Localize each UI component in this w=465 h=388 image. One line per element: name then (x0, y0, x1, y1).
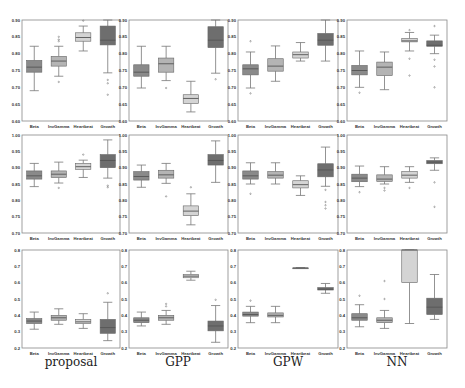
y-tick-label: 0.90 (12, 18, 21, 23)
y-tick-label: 0.8 (14, 248, 20, 253)
x-tick-label: InvGamma (374, 236, 396, 241)
x-tick-label: Beta (246, 236, 256, 241)
y-tick-label: 0.85 (228, 182, 237, 187)
y-tick-label: 0.65 (337, 102, 346, 107)
plot-frame (22, 135, 120, 233)
panel-nn-row2: 0.700.750.800.850.900.951.00BetaInvGamma… (337, 133, 447, 242)
y-tick-label: 0.85 (12, 34, 21, 39)
plot-frame (238, 250, 338, 348)
y-tick-label: 0.8 (121, 248, 127, 253)
y-tick-label: 0.80 (337, 51, 346, 56)
y-tick-label: 0.90 (119, 18, 128, 23)
y-tick-label: 0.2 (14, 346, 20, 351)
y-tick-label: 0.70 (12, 231, 21, 236)
y-tick-label: 1.00 (119, 133, 128, 138)
y-tick-label: 1.00 (228, 133, 237, 138)
y-tick-label: 0.75 (337, 214, 346, 219)
y-tick-label: 0.6 (14, 280, 20, 285)
y-tick-label: 0.85 (337, 182, 346, 187)
column-label-nn: NN (347, 355, 447, 369)
y-tick-label: 0.6 (121, 280, 127, 285)
x-tick-label: Beta (137, 236, 147, 241)
y-tick-label: 0.8 (230, 248, 236, 253)
x-tick-label: Heartbeat (291, 124, 311, 129)
box-heartbeat (293, 268, 309, 269)
x-tick-label: Growth (208, 236, 223, 241)
panel-proposal-row2: 0.700.750.800.850.900.951.00BetaInvGamma… (12, 133, 120, 242)
y-tick-label: 0.95 (119, 149, 128, 154)
y-tick-label: 0.4 (230, 313, 236, 318)
y-tick-label: 0.75 (228, 214, 237, 219)
y-tick-label: 0.75 (12, 214, 21, 219)
y-tick-label: 0.70 (228, 85, 237, 90)
y-tick-label: 0.85 (12, 182, 21, 187)
plot-frame (129, 135, 228, 233)
y-tick-label: 0.7 (230, 264, 236, 269)
panel-gpp-row2: 0.700.750.800.850.900.951.00BetaInvGamma… (119, 133, 228, 242)
y-tick-label: 0.60 (337, 119, 346, 124)
x-tick-label: Heartbeat (74, 236, 94, 241)
x-tick-label: Beta (355, 124, 365, 129)
y-tick-label: 0.7 (339, 264, 345, 269)
y-tick-label: 0.80 (119, 51, 128, 56)
x-tick-label: Heartbeat (400, 124, 420, 129)
x-tick-label: Heartbeat (181, 124, 201, 129)
y-tick-label: 0.85 (119, 182, 128, 187)
x-tick-label: InvGamma (374, 124, 396, 129)
x-tick-label: Growth (100, 124, 115, 129)
x-tick-label: Beta (30, 124, 40, 129)
x-tick-label: InvGamma (155, 236, 177, 241)
y-tick-label: 0.5 (339, 297, 345, 302)
x-tick-label: Growth (318, 236, 333, 241)
x-tick-label: InvGamma (48, 236, 70, 241)
boxplot-grid: 0.600.650.700.750.800.850.90BetaInvGamma… (0, 0, 465, 388)
y-tick-label: 0.3 (230, 329, 236, 334)
panel-nn-row3: 0.20.30.40.50.60.70.8BetaInvGammaHeartbe… (339, 248, 447, 357)
y-tick-label: 0.85 (228, 34, 237, 39)
x-tick-label: InvGamma (48, 124, 70, 129)
panel-gpw-row1: 0.600.650.700.750.800.850.90BetaInvGamma… (228, 18, 338, 130)
x-tick-label: InvGamma (265, 236, 287, 241)
panel-gpp-row1: 0.600.650.700.750.800.850.90BetaInvGamma… (119, 18, 228, 130)
y-tick-label: 0.60 (119, 119, 128, 124)
y-tick-label: 0.90 (228, 165, 237, 170)
y-tick-label: 0.75 (12, 68, 21, 73)
y-tick-label: 0.4 (121, 313, 127, 318)
y-tick-label: 0.90 (119, 165, 128, 170)
panel-gpw-row2: 0.700.750.800.850.900.951.00BetaInvGamma… (228, 133, 338, 242)
y-tick-label: 1.00 (12, 133, 21, 138)
y-tick-label: 0.5 (121, 297, 127, 302)
y-tick-label: 0.70 (119, 85, 128, 90)
x-tick-label: Growth (100, 236, 115, 241)
y-tick-label: 0.70 (12, 85, 21, 90)
y-tick-label: 0.5 (14, 297, 20, 302)
y-tick-label: 0.5 (230, 297, 236, 302)
x-tick-label: InvGamma (265, 124, 287, 129)
column-label-gpp: GPP (128, 355, 228, 369)
x-tick-label: Heartbeat (291, 236, 311, 241)
y-tick-label: 0.70 (228, 231, 237, 236)
y-tick-label: 0.75 (228, 68, 237, 73)
x-tick-label: Growth (208, 124, 223, 129)
y-tick-label: 0.6 (339, 280, 345, 285)
panel-gpp-row3: 0.20.30.40.50.60.70.8BetaInvGammaHeartbe… (121, 248, 228, 357)
y-tick-label: 0.70 (337, 231, 346, 236)
y-tick-label: 0.2 (339, 346, 345, 351)
y-tick-label: 0.70 (337, 85, 346, 90)
y-tick-label: 0.80 (12, 51, 21, 56)
y-tick-label: 0.90 (228, 18, 237, 23)
column-label-proposal: proposal (21, 355, 121, 369)
x-tick-label: Beta (355, 236, 365, 241)
y-tick-label: 0.4 (14, 313, 20, 318)
panel-gpw-row3: 0.20.30.40.50.60.70.8BetaInvGammaHeartbe… (230, 248, 338, 357)
y-tick-label: 0.75 (337, 68, 346, 73)
x-tick-label: InvGamma (155, 124, 177, 129)
y-tick-label: 0.65 (12, 102, 21, 107)
y-tick-label: 0.75 (119, 68, 128, 73)
y-tick-label: 0.80 (119, 198, 128, 203)
y-tick-label: 0.75 (119, 214, 128, 219)
y-tick-label: 0.95 (337, 149, 346, 154)
x-tick-label: Heartbeat (181, 236, 201, 241)
panel-proposal-row1: 0.600.650.700.750.800.850.90BetaInvGamma… (12, 18, 120, 130)
y-tick-label: 0.90 (337, 165, 346, 170)
